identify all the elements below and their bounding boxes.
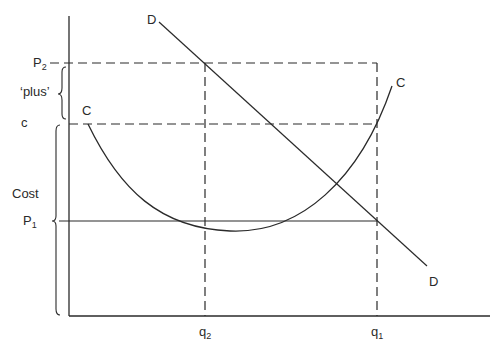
label-p1: P1 — [23, 213, 37, 230]
demand-line — [159, 22, 427, 266]
label-cost-left: C — [82, 103, 91, 118]
label-p2: P2 — [33, 55, 47, 72]
label-demand-bottom: D — [429, 274, 438, 289]
label-q2: q2 — [199, 324, 211, 341]
label-cost: Cost — [12, 186, 39, 201]
label-demand-top: D — [147, 12, 156, 27]
label-cost-right: C — [396, 75, 405, 90]
label-q1: q1 — [371, 324, 383, 341]
cost-brace — [52, 125, 60, 315]
pricing-diagram: P2 ‘plus’ c Cost P1 q2 q1 D D C C — [0, 0, 502, 357]
label-plus: ‘plus’ — [20, 84, 50, 99]
cost-curve — [88, 86, 392, 231]
plus-brace — [58, 67, 66, 119]
label-c: c — [21, 115, 28, 130]
